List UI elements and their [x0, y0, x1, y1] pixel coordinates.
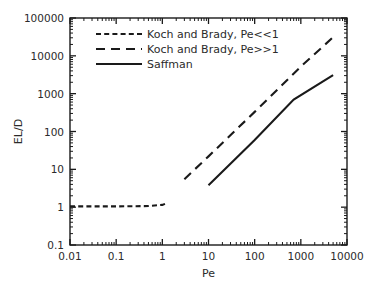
legend-label-1: Koch and Brady, Pe>>1 [147, 43, 279, 56]
y-tick-label: 10 [51, 163, 64, 175]
chart-figure: 0.010.11101001000100000.1110100100010000… [0, 0, 379, 295]
series-line-1 [184, 37, 333, 179]
x-axis-title: Pe [202, 267, 215, 280]
y-tick-label: 100000 [24, 12, 64, 24]
y-tick-label: 1 [57, 201, 64, 213]
y-tick-label: 10000 [31, 50, 64, 62]
x-tick-label: 10 [202, 250, 215, 262]
x-tick-label: 100 [245, 250, 265, 262]
legend-label-2: Saffman [147, 58, 193, 71]
x-tick-label: 10000 [330, 250, 363, 262]
x-tick-label: 1 [159, 250, 166, 262]
y-tick-label: 0.1 [47, 239, 64, 251]
x-tick-label: 0.1 [108, 250, 125, 262]
y-tick-label: 1000 [37, 88, 64, 100]
y-tick-label: 100 [44, 126, 64, 138]
x-tick-label: 0.01 [58, 250, 81, 262]
loglog-plot: 0.010.11101001000100000.1110100100010000… [0, 0, 379, 295]
legend-label-0: Koch and Brady, Pe<<1 [147, 28, 279, 41]
y-axis-title: EL/D [12, 119, 25, 144]
series-line-0 [70, 203, 168, 207]
x-tick-label: 1000 [287, 250, 314, 262]
series-line-2 [209, 75, 334, 185]
